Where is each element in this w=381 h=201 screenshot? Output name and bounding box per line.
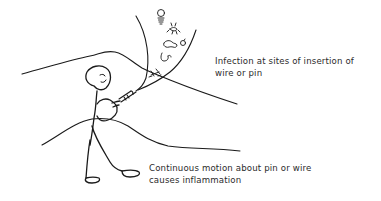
foot-left	[85, 177, 99, 183]
mouth	[101, 80, 106, 82]
bacterium-spider	[167, 23, 180, 34]
annotation-line: causes inflammation	[149, 175, 311, 187]
eye	[100, 74, 105, 76]
annotation-infection: Infection at sites of insertion of wire …	[215, 56, 354, 79]
bacterium-bulb	[158, 10, 165, 25]
bacterium-coil	[164, 41, 177, 48]
annotation-motion: Continuous motion about pin or wire caus…	[149, 163, 311, 186]
head	[86, 66, 111, 90]
annotation-line: Infection at sites of insertion of	[215, 56, 354, 68]
flashlight-icon	[119, 91, 136, 102]
bacterium-ring	[181, 39, 186, 46]
stick-figure	[85, 66, 139, 183]
light-beam	[136, 16, 148, 91]
bacterium-hook	[161, 53, 171, 61]
annotation-line: wire or pin	[215, 68, 354, 80]
bacterium-x	[149, 69, 161, 77]
microbes	[149, 10, 186, 78]
illustration: Infection at sites of insertion of wire …	[0, 0, 381, 201]
annotation-line: Continuous motion about pin or wire	[149, 163, 311, 175]
hill-front	[42, 118, 240, 151]
foot-right	[122, 170, 139, 177]
